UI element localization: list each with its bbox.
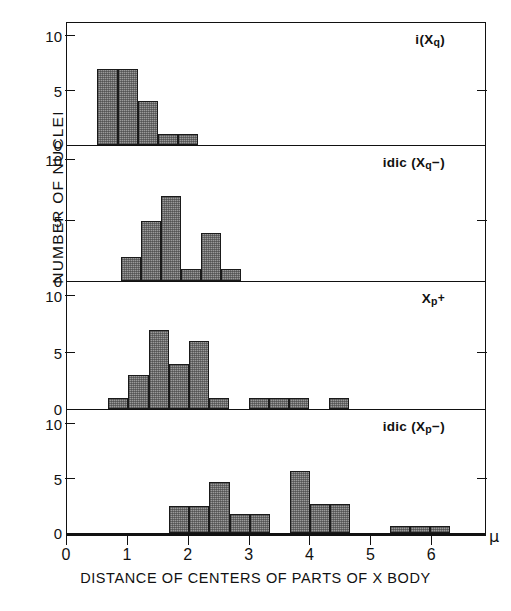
y-axis-tick-right <box>477 478 487 479</box>
histogram-bar <box>128 375 148 409</box>
histogram-bar <box>221 269 241 281</box>
y-axis-tick-label: 5 <box>54 214 62 229</box>
y-axis-tick <box>65 159 75 160</box>
x-axis-ticks <box>66 536 486 545</box>
histogram-bar <box>178 134 198 145</box>
plot-area-4: 0510 <box>67 410 485 533</box>
y-axis-tick-label: 10 <box>45 289 62 304</box>
x-axis-tick-label: 3 <box>244 546 253 564</box>
y-axis-tick <box>65 352 75 353</box>
histogram-bar <box>141 221 161 282</box>
y-axis-tick-right <box>477 352 487 353</box>
y-axis-tick-label: 0 <box>54 402 62 417</box>
y-axis-tick <box>65 423 75 424</box>
histogram-bar <box>430 526 450 533</box>
y-axis-tick <box>65 90 75 91</box>
histogram-bar <box>169 506 189 533</box>
y-axis-tick-right <box>477 90 487 91</box>
plot-area-2: 0510 <box>67 146 485 281</box>
x-axis-tick-label: 5 <box>366 546 375 564</box>
histogram-bar <box>138 101 158 145</box>
y-axis-tick-label: 0 <box>54 526 62 541</box>
histogram-bar <box>209 398 229 409</box>
histogram-bar <box>121 257 141 281</box>
histogram-bar <box>158 134 178 145</box>
histogram-bar <box>108 398 128 409</box>
y-axis-tick <box>65 478 75 479</box>
x-axis-tick-labels: 0123456 <box>66 546 486 566</box>
y-axis-tick-label: 10 <box>45 29 62 44</box>
histogram-bar <box>169 364 189 409</box>
panel-xp-plus: Xp+ 0510 <box>66 282 486 410</box>
histogram-bar <box>390 526 410 533</box>
histogram-bar <box>269 398 289 409</box>
x-axis-tick <box>249 536 250 545</box>
x-axis-tick <box>127 536 128 545</box>
y-axis-tick-label: 10 <box>45 417 62 432</box>
plot-area-3: 0510 <box>67 282 485 409</box>
y-axis-tick-label: 5 <box>54 84 62 99</box>
histogram-bar <box>149 330 169 409</box>
y-axis-tick-label: 0 <box>54 138 62 153</box>
histogram-bar <box>189 341 209 409</box>
y-axis-tick <box>65 220 75 221</box>
y-axis-tick <box>65 295 75 296</box>
histogram-bar <box>249 398 269 409</box>
x-axis-tick <box>309 536 310 545</box>
histogram-bar <box>289 398 309 409</box>
x-axis-tick <box>370 536 371 545</box>
plot-area-1: 0510 <box>67 23 485 145</box>
y-axis-tick-label: 5 <box>54 346 62 361</box>
panel-stack: i(Xq) 0510 idic (Xq−) 0510 Xp+ 0510 idic… <box>66 22 486 534</box>
x-axis-tick-label: 4 <box>305 546 314 564</box>
histogram-bar <box>181 269 201 281</box>
y-axis-tick-right <box>477 220 487 221</box>
x-axis-tick <box>188 536 189 545</box>
histogram-bar <box>290 471 310 533</box>
histogram-bar <box>161 196 181 281</box>
y-axis-tick-label: 10 <box>45 153 62 168</box>
histogram-bar <box>330 504 350 533</box>
histogram-bar <box>209 482 229 533</box>
x-axis-tick-label: 6 <box>427 546 436 564</box>
histogram-bar <box>329 398 349 409</box>
x-axis-tick-label: 1 <box>122 546 131 564</box>
chart-root: NUMBER OF NUCLEI i(Xq) 0510 idic (Xq−) 0… <box>0 0 511 611</box>
x-axis-tick <box>66 536 67 545</box>
y-axis-tick-label: 0 <box>54 274 62 289</box>
x-axis-tick-label: 2 <box>183 546 192 564</box>
histogram-bar <box>230 514 250 533</box>
x-axis-unit: μ <box>489 527 499 546</box>
x-axis-tick <box>431 536 432 545</box>
x-axis-label: DISTANCE OF CENTERS OF PARTS OF X BODY <box>0 570 511 586</box>
x-axis-tick-label: 0 <box>62 546 71 564</box>
histogram-bar <box>250 514 270 533</box>
panel-idic-xp-minus: idic (Xp−) 0510 <box>66 410 486 534</box>
histogram-bar <box>118 69 138 145</box>
histogram-bar <box>410 526 430 533</box>
histogram-bar <box>310 504 330 533</box>
y-axis-tick <box>65 35 75 36</box>
y-axis-tick-label: 5 <box>54 472 62 487</box>
histogram-bar <box>97 69 117 145</box>
panel-i-xq: i(Xq) 0510 <box>66 22 486 146</box>
histogram-bar <box>189 506 209 533</box>
panel-idic-xq-minus: idic (Xq−) 0510 <box>66 146 486 282</box>
histogram-bar <box>201 233 221 281</box>
